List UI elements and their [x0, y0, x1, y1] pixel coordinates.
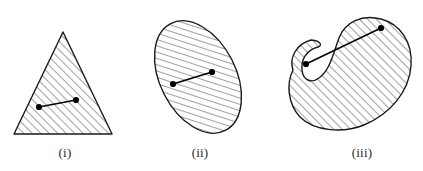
triangle-point-a [36, 104, 42, 110]
kidney-point-b [378, 25, 384, 31]
kidney-region [289, 18, 411, 130]
ellipse-point-a [170, 81, 176, 87]
figure-page: (i) (ii) (iii) [0, 0, 423, 171]
kidney-point-a [303, 61, 309, 67]
kidney-fill [289, 18, 411, 130]
caption-figure-i: (i) [40, 145, 90, 161]
caption-figure-iii: (iii) [331, 145, 393, 161]
triangle-point-b [73, 97, 79, 103]
caption-figure-ii: (ii) [175, 145, 225, 161]
ellipse-point-b [209, 69, 215, 75]
triangle-fill [14, 32, 112, 134]
triangle-region [14, 32, 112, 134]
